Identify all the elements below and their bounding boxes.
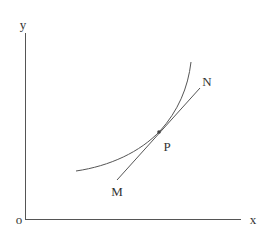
y-axis-label: y bbox=[20, 18, 27, 31]
x-axis-label: x bbox=[250, 213, 257, 226]
point-m-label: M bbox=[111, 185, 123, 198]
point-p-label: P bbox=[163, 140, 170, 153]
point-p-marker bbox=[157, 130, 161, 134]
point-n-label: N bbox=[202, 75, 211, 88]
origin-label: o bbox=[16, 213, 23, 226]
tangent-line-mn bbox=[117, 88, 200, 180]
diagram-canvas bbox=[0, 0, 277, 241]
